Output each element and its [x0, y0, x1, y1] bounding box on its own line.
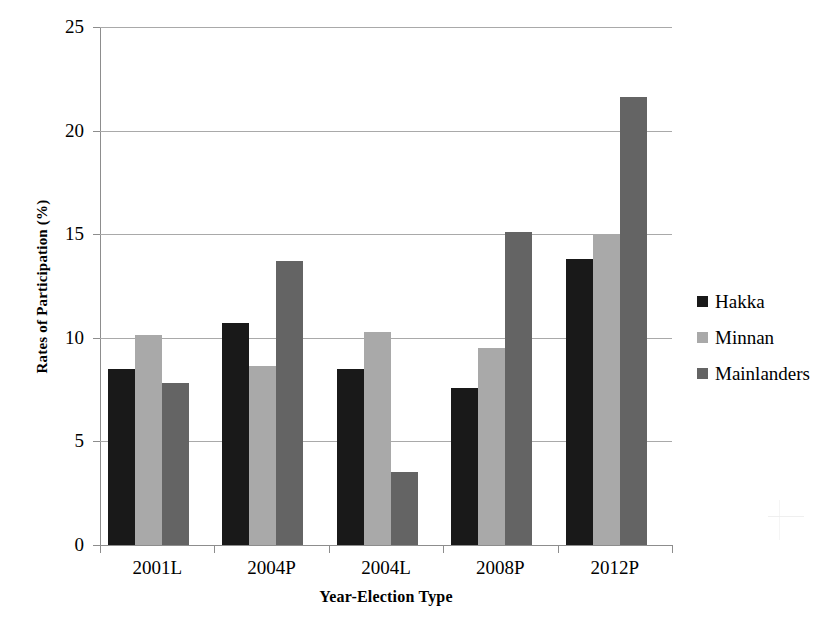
- bar-2008P-Minnan: [478, 348, 505, 545]
- legend-label: Hakka: [715, 292, 765, 311]
- bar-2001L-Mainlanders: [162, 383, 189, 545]
- x-tick-label-2001L: 2001L: [97, 557, 217, 579]
- y-tick-label: 5: [40, 431, 84, 450]
- x-axis-title: Year-Election Type: [100, 588, 672, 606]
- legend-item-Minnan: Minnan: [697, 319, 810, 355]
- y-tick-label: 15: [40, 224, 84, 243]
- y-tick-mark-25: [93, 27, 100, 28]
- x-tick-label-2004P: 2004P: [212, 557, 332, 579]
- x-tick-mark: [672, 546, 673, 553]
- legend-swatch-icon-Minnan: [697, 332, 708, 343]
- bar-2004P-Minnan: [249, 366, 276, 545]
- y-tick-mark-10: [93, 338, 100, 339]
- legend-swatch-icon-Hakka: [697, 296, 708, 307]
- y-tick-label: 20: [40, 121, 84, 140]
- bar-2001L-Hakka: [108, 369, 135, 545]
- y-axis-title: Rates of Participation (%): [34, 137, 51, 437]
- y-tick-mark-20: [93, 131, 100, 132]
- y-tick-mark-0: [93, 545, 100, 546]
- bar-2008P-Hakka: [451, 388, 478, 545]
- legend-label: Minnan: [715, 328, 774, 347]
- plot-area: [100, 27, 672, 545]
- bar-2008P-Mainlanders: [505, 232, 532, 545]
- bar-2004L-Minnan: [364, 332, 391, 545]
- x-tick-mark: [443, 546, 444, 553]
- x-tick-label-2012P: 2012P: [555, 557, 675, 579]
- bar-2004L-Mainlanders: [391, 472, 418, 545]
- x-tick-label-2008P: 2008P: [440, 557, 560, 579]
- bar-chart-figure: Rates of Participation (%) 0510152025 20…: [0, 0, 834, 634]
- legend-item-Mainlanders: Mainlanders: [697, 355, 810, 391]
- y-tick-label: 0: [40, 535, 84, 554]
- bars-layer: [100, 27, 672, 545]
- y-tick-label: 25: [40, 17, 84, 36]
- bar-2012P-Hakka: [566, 259, 593, 545]
- bar-2004P-Hakka: [222, 323, 249, 545]
- bar-2001L-Minnan: [135, 335, 162, 545]
- x-tick-mark: [558, 546, 559, 553]
- legend-item-Hakka: Hakka: [697, 283, 810, 319]
- y-tick-mark-5: [93, 441, 100, 442]
- legend-swatch-icon-Mainlanders: [697, 368, 708, 379]
- x-tick-mark: [100, 546, 101, 553]
- bar-2012P-Mainlanders: [620, 97, 647, 545]
- bar-2004P-Mainlanders: [276, 261, 303, 545]
- bar-2012P-Minnan: [593, 234, 620, 545]
- x-tick-mark: [214, 546, 215, 553]
- bar-2004L-Hakka: [337, 369, 364, 545]
- x-tick-label-2004L: 2004L: [326, 557, 446, 579]
- x-axis-line: [100, 545, 673, 546]
- x-tick-mark: [329, 546, 330, 553]
- y-tick-mark-15: [93, 234, 100, 235]
- scan-artifact: [768, 500, 804, 540]
- y-tick-label: 10: [40, 328, 84, 347]
- chart-legend: HakkaMinnanMainlanders: [697, 283, 810, 391]
- legend-label: Mainlanders: [715, 364, 810, 383]
